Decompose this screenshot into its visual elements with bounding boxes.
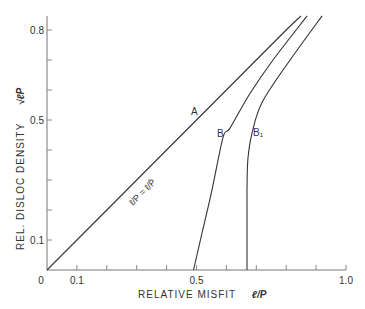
x-tick-label: 0.1 bbox=[70, 275, 84, 286]
curve-b1 bbox=[247, 16, 322, 270]
x-tick-label: 1.0 bbox=[339, 275, 353, 286]
y-tick-label: 0.5 bbox=[30, 115, 44, 126]
x-axis-symbol: ℓ/P bbox=[252, 289, 267, 300]
y-tick-labels: 0.10.50.8 bbox=[30, 25, 44, 246]
y-axis-title-text: REL. DISLOC DENSITY bbox=[15, 123, 26, 250]
x-ticks bbox=[77, 265, 346, 270]
x-axis-title: RELATIVE MISFIT ℓ/P bbox=[138, 289, 267, 300]
y-ticks bbox=[47, 30, 52, 240]
x-tick-label: 0.5 bbox=[190, 275, 204, 286]
x-tick-label: 0 bbox=[38, 275, 44, 286]
y-axis-symbol: √ℓP bbox=[15, 87, 26, 105]
label-a: A bbox=[191, 106, 198, 117]
y-tick-label: 0.1 bbox=[30, 235, 44, 246]
x-axis-title-text: RELATIVE MISFIT bbox=[138, 289, 236, 300]
y-tick-label: 0.8 bbox=[30, 25, 44, 36]
curve-a bbox=[47, 16, 301, 270]
x-tick-labels: 00.10.51.0 bbox=[38, 275, 353, 286]
label-diagonal-equation: ℓ/P = ℓ/P̄ bbox=[127, 177, 157, 207]
label-b1: B₁ bbox=[253, 127, 264, 138]
y-axis-title: REL. DISLOC DENSITY √ℓP bbox=[15, 87, 26, 250]
chart-canvas: 00.10.51.0 0.10.50.8 A B B₁ ℓ/P = ℓ/P̄ R… bbox=[0, 0, 365, 309]
label-b: B bbox=[217, 128, 224, 139]
